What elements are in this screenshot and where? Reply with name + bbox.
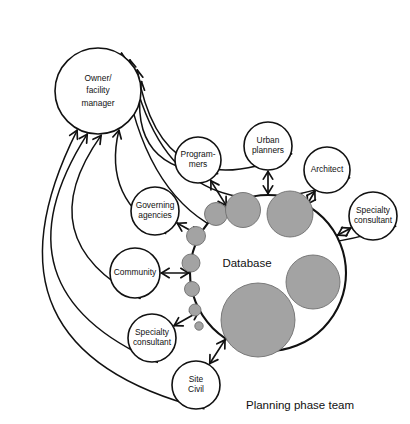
community-label-line-0: Community [114, 267, 157, 277]
link-urban-planners-database [263, 172, 272, 194]
owner-facility-manager-label-line-0: Owner/ [85, 73, 113, 83]
programmers-label-line-1: mers [189, 159, 208, 169]
diagram-canvas: Database Program-mersUrbanplannersArchit… [0, 0, 410, 424]
node-site-civil[interactable]: SiteCivil [172, 361, 220, 409]
governing-agencies-label-line-1: agencies [138, 210, 172, 220]
blob-1 [205, 203, 228, 226]
urban-planners-label-line-1: planners [252, 145, 284, 155]
blob-10 [221, 283, 295, 357]
blob-3 [267, 191, 313, 237]
owner-facility-manager-label-line-2: manager [81, 98, 114, 108]
node-specialty-consultant-right[interactable]: Specialtyconsultant [349, 192, 397, 240]
blob-7 [189, 304, 201, 316]
database-hub[interactable]: Database [182, 191, 346, 357]
blob-9 [286, 255, 340, 309]
site-civil-label-line-1: Civil [188, 384, 204, 394]
node-urban-planners[interactable]: Urbanplanners [244, 122, 292, 170]
urban-planners-label-line-0: Urban [257, 135, 280, 145]
blob-6 [185, 282, 200, 297]
link-site-civil-database [210, 340, 225, 364]
architect-label-line-0: Architect [311, 164, 344, 174]
node-specialty-consultant-left[interactable]: Specialtyconsultant [128, 314, 176, 362]
owner-node[interactable]: Owner/facilitymanager [55, 48, 141, 134]
planning-phase-team-caption: Planning phase team [246, 399, 354, 411]
blob-8 [195, 322, 203, 330]
owner-facility-manager-label-line-1: facility [86, 85, 110, 95]
blob-4 [187, 227, 206, 246]
node-governing-agencies[interactable]: Governingagencies [131, 187, 179, 235]
diagram-caption: Planning phase team [246, 399, 354, 411]
node-owner-facility-manager[interactable]: Owner/facilitymanager [55, 48, 141, 134]
blob-5 [182, 254, 200, 272]
site-civil-label-line-0: Site [189, 374, 204, 384]
node-programmers[interactable]: Program-mers [175, 137, 221, 183]
node-architect[interactable]: Architect [304, 147, 350, 193]
specialty-consultant-left-label-line-1: consultant [133, 337, 172, 347]
node-community[interactable]: Community [110, 248, 160, 298]
specialty-consultant-right-label-line-0: Specialty [356, 205, 391, 215]
database-label: Database [222, 257, 271, 269]
blob-2 [226, 193, 261, 228]
planning-phase-team-diagram: Database Program-mersUrbanplannersArchit… [0, 0, 410, 424]
specialty-consultant-left-label-line-0: Specialty [135, 327, 170, 337]
programmers-label-line-0: Program- [181, 149, 216, 159]
governing-agencies-label-line-0: Governing [136, 200, 175, 210]
specialty-consultant-right-label-line-1: consultant [354, 215, 393, 225]
link-specialty-right-database [338, 227, 351, 236]
